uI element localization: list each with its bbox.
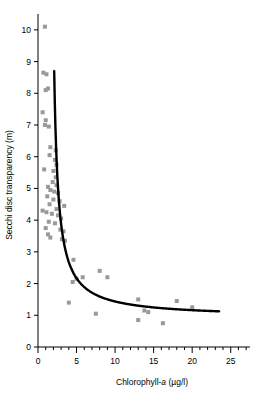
fitted-curve-line <box>54 71 219 311</box>
y-axis-tick-label: 7 <box>26 120 31 130</box>
data-point-marker <box>190 305 194 309</box>
data-point-marker <box>105 275 109 279</box>
data-point-marker <box>47 220 51 224</box>
data-point-marker <box>136 318 140 322</box>
data-point-marker <box>94 312 98 316</box>
x-axis-tick-label: 15 <box>149 356 159 366</box>
data-point-marker <box>41 209 45 213</box>
data-point-marker <box>55 207 59 211</box>
data-point-marker <box>48 236 52 240</box>
data-point-marker <box>146 310 150 314</box>
data-point-marker <box>161 321 165 325</box>
y-axis-tick-label: 4 <box>26 215 31 225</box>
y-axis-tick-label: 2 <box>26 279 31 289</box>
data-point-marker <box>71 280 75 284</box>
x-axis-title-post: (µg/l) <box>166 377 188 387</box>
data-point-marker <box>81 275 85 279</box>
y-axis-tick-label: 9 <box>26 57 31 67</box>
y-axis: 012345678910 <box>22 14 38 352</box>
x-axis-title-pre: Chlorophyll- <box>116 377 162 387</box>
data-point-marker <box>44 72 48 76</box>
data-point-marker <box>50 212 54 216</box>
y-axis-tick-label: 0 <box>26 342 31 352</box>
data-point-marker <box>62 204 66 208</box>
data-point-marker <box>48 202 52 206</box>
data-point-marker <box>52 190 56 194</box>
y-axis-tick-label: 8 <box>26 88 31 98</box>
x-axis-tick-label: 10 <box>110 356 120 366</box>
data-point-marker <box>48 145 52 149</box>
y-axis-tick-label: 3 <box>26 247 31 257</box>
data-point-marker <box>44 226 48 230</box>
data-point-marker <box>43 123 47 127</box>
chart-figure: 012345678910 0510152025 Chlorophyll-a (µ… <box>0 0 266 393</box>
x-axis-tick-label: 0 <box>36 356 41 366</box>
data-point-marker <box>136 297 140 301</box>
data-point-marker <box>71 258 75 262</box>
x-axis-tick-label: 25 <box>226 356 236 366</box>
y-axis-tick-label: 5 <box>26 183 31 193</box>
data-point-marker <box>43 25 47 29</box>
data-points <box>41 25 195 326</box>
data-point-marker <box>46 87 50 91</box>
data-point-marker <box>47 125 51 129</box>
scatter-plot: 012345678910 0510152025 Chlorophyll-a (µ… <box>0 0 266 393</box>
data-point-marker <box>44 118 48 122</box>
y-axis-tick-label: 1 <box>26 310 31 320</box>
data-point-marker <box>67 301 71 305</box>
y-axis-tick-label: 10 <box>22 25 32 35</box>
data-point-marker <box>175 299 179 303</box>
x-axis-tick-label: 20 <box>187 356 197 366</box>
data-point-marker <box>98 269 102 273</box>
x-axis: 0510152025 <box>36 347 250 366</box>
y-axis-title: Secchi disc transparency (m) <box>4 130 14 240</box>
y-axis-tick-label: 6 <box>26 152 31 162</box>
data-point-marker <box>44 210 48 214</box>
data-point-marker <box>51 198 55 202</box>
data-point-marker <box>41 110 45 114</box>
data-point-marker <box>48 153 52 157</box>
data-point-marker <box>48 188 52 192</box>
data-point-marker <box>45 194 49 198</box>
data-point-marker <box>142 309 146 313</box>
data-point-marker <box>53 221 57 225</box>
data-point-marker <box>51 169 55 173</box>
x-axis-tick-label: 5 <box>74 356 79 366</box>
x-axis-title: Chlorophyll-a (µg/l) <box>116 377 188 387</box>
data-point-marker <box>42 167 46 171</box>
data-point-marker <box>51 180 55 184</box>
